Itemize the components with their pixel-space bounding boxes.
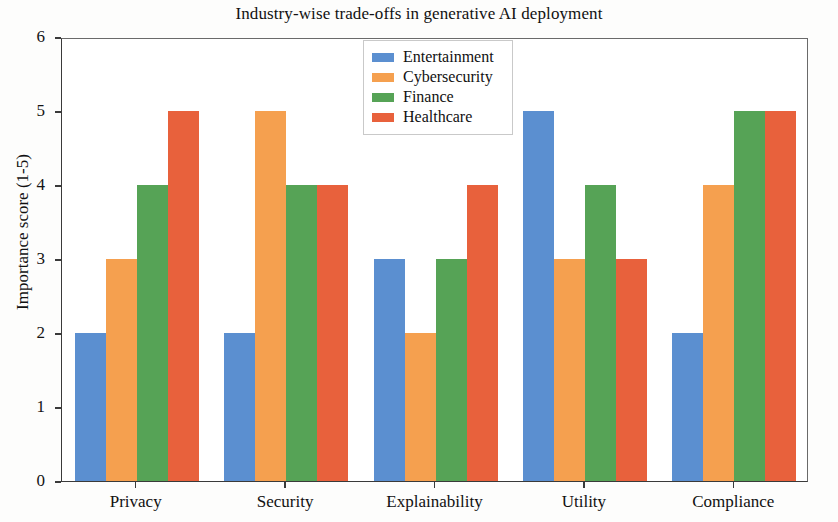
y-tick-label: 5 xyxy=(7,101,45,121)
y-tick-label: 2 xyxy=(7,323,45,343)
x-tick-label-security: Security xyxy=(257,492,314,512)
legend-swatch-icon xyxy=(372,93,394,102)
x-tick-label-utility: Utility xyxy=(562,492,606,512)
bar-security-healthcare xyxy=(317,185,348,481)
bar-explainability-cybersecurity xyxy=(405,333,436,481)
legend-swatch-icon xyxy=(372,53,394,62)
legend-label: Entertainment xyxy=(403,49,494,65)
bar-privacy-cybersecurity xyxy=(106,259,137,481)
bar-compliance-finance xyxy=(734,111,765,481)
bar-privacy-entertainment xyxy=(75,333,106,481)
bar-compliance-entertainment xyxy=(672,333,703,481)
legend-label: Healthcare xyxy=(403,109,472,125)
bar-utility-healthcare xyxy=(616,259,647,481)
x-tick-mark xyxy=(733,482,734,488)
bar-security-finance xyxy=(286,185,317,481)
bar-explainability-entertainment xyxy=(374,259,405,481)
bar-privacy-healthcare xyxy=(168,111,199,481)
bar-utility-cybersecurity xyxy=(554,259,585,481)
legend-item: Healthcare xyxy=(372,107,504,127)
chart-figure: Industry-wise trade-offs in generative A… xyxy=(0,0,838,522)
bar-security-cybersecurity xyxy=(255,111,286,481)
x-tick-mark xyxy=(135,482,136,488)
bar-utility-finance xyxy=(585,185,616,481)
legend-swatch-icon xyxy=(372,113,394,122)
legend-label: Cybersecurity xyxy=(403,69,493,85)
legend-swatch-icon xyxy=(372,73,394,82)
bar-compliance-healthcare xyxy=(765,111,796,481)
y-tick-label: 1 xyxy=(7,397,45,417)
y-tick-label: 3 xyxy=(7,249,45,269)
legend-item: Entertainment xyxy=(372,47,504,67)
x-tick-mark xyxy=(583,482,584,488)
x-tick-mark xyxy=(284,482,285,488)
legend-label: Finance xyxy=(403,89,454,105)
y-axis-title: Importance score (1-5) xyxy=(13,42,33,422)
bar-compliance-cybersecurity xyxy=(703,185,734,481)
x-tick-label-compliance: Compliance xyxy=(692,492,774,512)
chart-title: Industry-wise trade-offs in generative A… xyxy=(0,4,838,24)
legend-item: Finance xyxy=(372,87,504,107)
y-tick-label: 4 xyxy=(7,175,45,195)
y-tick-label: 0 xyxy=(7,471,45,491)
x-tick-label-privacy: Privacy xyxy=(110,492,162,512)
bar-security-entertainment xyxy=(224,333,255,481)
chart-legend: EntertainmentCybersecurityFinanceHealthc… xyxy=(363,40,513,135)
y-tick-label: 6 xyxy=(7,27,45,47)
bar-explainability-healthcare xyxy=(467,185,498,481)
bar-explainability-finance xyxy=(436,259,467,481)
x-tick-label-explainability: Explainability xyxy=(386,492,482,512)
x-tick-mark xyxy=(434,482,435,488)
bar-privacy-finance xyxy=(137,185,168,481)
bar-utility-entertainment xyxy=(523,111,554,481)
legend-item: Cybersecurity xyxy=(372,67,504,87)
